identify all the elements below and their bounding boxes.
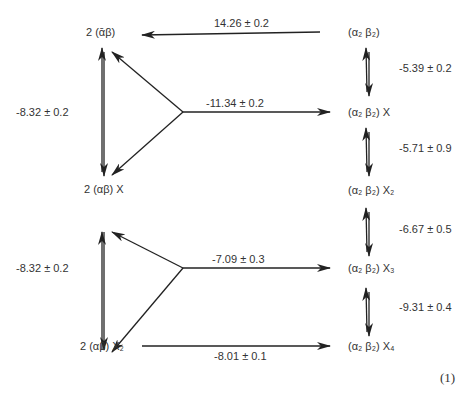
constant-mid-lower: -7.09 ± 0.3: [212, 253, 265, 265]
species-right-2: (α₂ β₂) X₂: [348, 184, 394, 196]
species-left-mid: 2 (αβ) X: [84, 183, 124, 195]
species-right-1: (α₂ β₂) X: [348, 106, 390, 118]
constant-mid-upper: -11.34 ± 0.2: [206, 97, 264, 109]
constant-right-3-4: -9.31 ± 0.4: [399, 301, 452, 313]
constant-left-upper: -8.32 ± 0.2: [16, 106, 69, 118]
arrow-branch1-up: [112, 52, 183, 112]
constant-right-0-1: -5.39 ± 0.2: [399, 62, 452, 74]
species-right-0: (α₂ β₂): [348, 26, 380, 38]
species-left-top: 2 (ᾱβ): [86, 26, 115, 38]
constant-bottom: -8.01 ± 0.1: [214, 350, 267, 362]
species-right-3: (α₂ β₂) X₃: [348, 262, 394, 274]
species-right-4: (α₂ β₂) X₄: [348, 340, 395, 352]
reaction-scheme-arrows: [0, 0, 471, 394]
constant-top: 14.26 ± 0.2: [214, 17, 269, 29]
equation-number: (1): [440, 370, 455, 386]
arrow-branch2-up: [112, 232, 183, 268]
constant-right-1-2: -5.71 ± 0.9: [399, 142, 452, 154]
constant-right-2-3: -6.67 ± 0.5: [399, 223, 452, 235]
constant-left-lower: -8.32 ± 0.2: [16, 262, 69, 274]
species-left-bottom: 2 (αβ) X₂: [80, 340, 124, 352]
arrow-branch1-down: [112, 112, 183, 175]
arrow-top-horizontal: [142, 32, 320, 35]
